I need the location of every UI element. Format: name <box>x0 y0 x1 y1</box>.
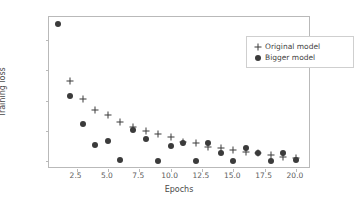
data-point <box>280 150 286 156</box>
data-point <box>230 147 237 154</box>
data-point <box>218 150 224 156</box>
plot-area: Original model Bigger model <box>48 16 310 168</box>
data-point <box>142 128 149 135</box>
chart-legend: Original model Bigger model <box>246 36 354 68</box>
data-point <box>205 140 211 146</box>
data-point <box>92 142 98 148</box>
x-tick-label: 10.0 <box>161 171 178 180</box>
data-point <box>92 106 99 113</box>
x-tick-label: 2.5 <box>70 171 82 180</box>
data-point <box>155 131 162 138</box>
data-point <box>117 119 124 126</box>
data-point <box>104 112 111 119</box>
data-point <box>105 138 111 144</box>
data-point <box>230 158 236 164</box>
plus-icon <box>251 41 265 52</box>
legend-entry-bigger-model: Bigger model <box>251 52 348 63</box>
data-point <box>130 127 136 133</box>
data-point <box>293 157 299 163</box>
data-point <box>192 140 199 147</box>
y-tick-mark <box>46 70 49 71</box>
data-point <box>243 145 249 151</box>
data-point <box>67 93 73 99</box>
y-tick-mark <box>46 131 49 132</box>
x-tick-label: 15.0 <box>224 171 241 180</box>
legend-label-bigger-model: Bigger model <box>265 53 315 62</box>
data-point <box>168 143 174 149</box>
data-point <box>193 158 199 164</box>
data-point <box>79 95 86 102</box>
data-point <box>180 140 186 146</box>
data-point <box>167 134 174 141</box>
x-axis-title: Epochs <box>165 185 194 194</box>
x-tick-label: 17.5 <box>255 171 272 180</box>
x-tick-label: 7.5 <box>132 171 144 180</box>
data-point <box>255 150 261 156</box>
legend-entry-original-model: Original model <box>251 41 348 52</box>
x-tick-label: 12.5 <box>193 171 210 180</box>
y-tick-mark <box>46 40 49 41</box>
y-tick-mark <box>46 161 49 162</box>
x-tick-label: 5.0 <box>101 171 113 180</box>
legend-label-original-model: Original model <box>265 42 320 51</box>
x-tick-label: 20.0 <box>287 171 304 180</box>
data-point <box>67 77 74 84</box>
data-point <box>143 136 149 142</box>
data-point <box>268 158 274 164</box>
data-point <box>117 157 123 163</box>
data-point <box>55 21 61 27</box>
circle-icon <box>251 52 265 63</box>
y-tick-mark <box>46 101 49 102</box>
data-point <box>155 158 161 164</box>
y-axis-title: Training loss <box>0 47 7 137</box>
data-point <box>80 121 86 127</box>
